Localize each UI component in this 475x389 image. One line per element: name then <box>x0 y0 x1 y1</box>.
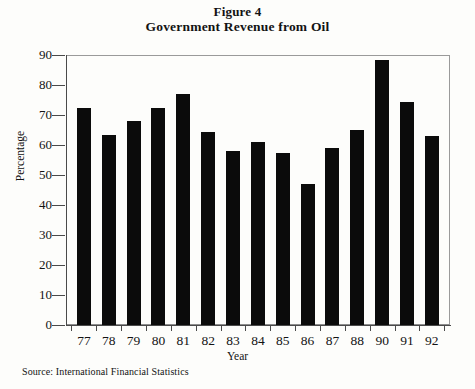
bar <box>201 132 215 326</box>
x-axis-tick <box>146 325 147 331</box>
bar <box>350 130 364 325</box>
x-axis-tick <box>295 325 296 331</box>
x-axis-tick <box>395 325 396 331</box>
figure-bar-chart: Figure 4 Government Revenue from Oil 010… <box>0 0 475 389</box>
y-axis-tick-label: 60 <box>4 138 52 151</box>
x-axis-tick <box>320 325 321 331</box>
x-axis-tick <box>171 325 172 331</box>
bar <box>77 108 91 326</box>
y-axis-tick-label: 0 <box>4 318 52 331</box>
y-axis-tick-label: 50 <box>4 168 52 181</box>
bar <box>325 148 339 325</box>
x-axis-tick <box>221 325 222 331</box>
y-axis-tick <box>52 235 65 236</box>
y-axis-tick <box>52 85 65 86</box>
y-axis-tick-label: 70 <box>4 108 52 121</box>
x-axis-title: Year <box>0 350 475 362</box>
bar <box>176 94 190 325</box>
y-axis-tick <box>52 295 65 296</box>
y-axis-tick <box>52 115 65 116</box>
x-axis-tick <box>96 325 97 331</box>
y-axis-tick-label: 40 <box>4 198 52 211</box>
source-caption: Source: International Financial Statisti… <box>22 366 189 377</box>
x-axis-tick <box>121 325 122 331</box>
y-axis-tick-label: 10 <box>4 288 52 301</box>
bar <box>276 153 290 326</box>
x-axis-tick <box>444 325 445 331</box>
chart-title: Figure 4 Government Revenue from Oil <box>0 4 475 34</box>
figure-title: Government Revenue from Oil <box>0 19 475 34</box>
x-axis-tick-label: 92 <box>417 333 447 348</box>
y-axis-tick-label: 20 <box>4 258 52 271</box>
y-axis-tick <box>52 175 65 176</box>
bar <box>301 184 315 325</box>
x-axis-tick <box>370 325 371 331</box>
y-axis-tick <box>52 55 65 56</box>
bar <box>127 121 141 325</box>
bar-series <box>66 55 450 325</box>
y-axis-title: Percentage <box>14 96 26 216</box>
y-axis-tick <box>52 145 65 146</box>
x-axis-tick <box>419 325 420 331</box>
x-axis-tick <box>196 325 197 331</box>
y-axis-tick-label: 30 <box>4 228 52 241</box>
y-axis-tick-label: 80 <box>4 78 52 91</box>
x-axis-line <box>66 325 451 326</box>
y-axis-tick <box>52 205 65 206</box>
bar <box>102 135 116 326</box>
bar <box>425 136 439 325</box>
y-axis-tick-label: 90 <box>4 48 52 61</box>
bar <box>226 151 240 325</box>
bar <box>251 142 265 325</box>
x-axis-tick <box>345 325 346 331</box>
y-axis-tick <box>52 265 65 266</box>
bar <box>151 108 165 326</box>
x-axis-tick <box>71 325 72 331</box>
bar <box>375 60 389 326</box>
figure-number: Figure 4 <box>0 4 475 19</box>
y-axis-tick <box>52 325 65 326</box>
bar <box>400 102 414 326</box>
x-axis-tick <box>270 325 271 331</box>
x-axis-tick <box>245 325 246 331</box>
